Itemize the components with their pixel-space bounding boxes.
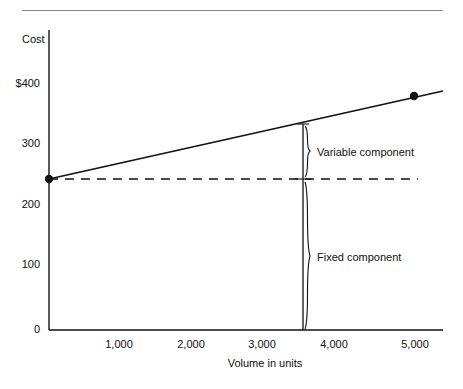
data-point-marker-5000 [410, 92, 418, 100]
y-tick-label-300: 300 [0, 138, 40, 149]
x-axis-title: Volume in units [205, 358, 325, 369]
y-axis-title: Cost [22, 34, 45, 45]
x-tick-label-3000: 3,000 [232, 339, 292, 350]
annotation-fixed-component: Fixed component [317, 252, 401, 263]
y-tick-label-200: 200 [0, 199, 40, 210]
x-tick-label-1000: 1,000 [89, 339, 149, 350]
cost-behavior-chart: Cost $400 300 200 100 0 1,000 2,000 3,00… [0, 0, 463, 389]
y-tick-label-100: 100 [0, 259, 40, 270]
fixed-component-brace [305, 182, 310, 329]
x-tick-label-4000: 4,000 [304, 339, 364, 350]
y-tick-label-0: 0 [0, 324, 40, 335]
variable-component-brace [305, 126, 310, 177]
annotation-variable-component: Variable component [317, 147, 414, 158]
total-cost-line [49, 91, 443, 179]
data-point-marker-origin [45, 175, 53, 183]
x-tick-label-5000: 5,000 [385, 339, 445, 350]
x-tick-label-2000: 2,000 [161, 339, 221, 350]
chart-canvas [0, 0, 463, 389]
y-tick-label-400: $400 [0, 78, 40, 89]
